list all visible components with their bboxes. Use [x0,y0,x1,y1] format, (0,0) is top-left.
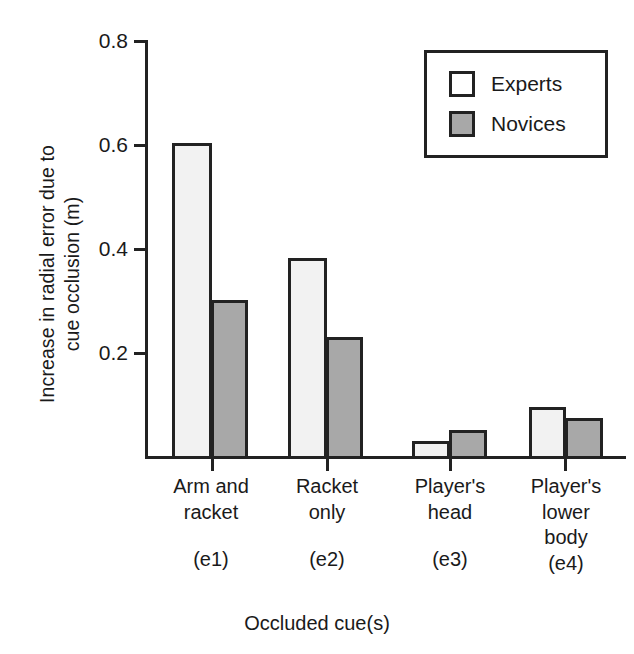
x-tick-e1 [211,459,214,471]
y-tick-0.6 [134,144,146,147]
x-tick-e4 [564,459,567,471]
y-axis-title-line-2: cue occlusion (m) [60,197,85,352]
y-tick-label-0.2: 0.2 [76,341,128,365]
x-axis-title: Occluded cue(s) [0,612,634,635]
legend-label-novices: Novices [491,112,566,136]
y-tick-label-0.8: 0.8 [76,29,128,53]
x-label-e4-line-3: body [498,525,634,551]
y-tick-0.8 [134,40,146,43]
legend-entry-experts: Experts [449,71,605,97]
y-axis-title: Increase in radial error due to cue occl… [29,54,91,494]
bar-novices-e2 [326,337,363,459]
x-tick-e3 [449,459,452,471]
bar-novices-e4 [565,418,603,459]
x-label-e2-line-2: only [259,500,395,526]
x-label-group-e2: Racket only (e2) [259,474,395,573]
bar-experts-e4 [529,407,566,459]
y-tick-0.4 [134,248,146,251]
y-axis-title-line-1: Increase in radial error due to [35,145,60,403]
x-label-e2-line-1: Racket [259,474,395,500]
x-label-e4-line-2: lower [498,500,634,526]
bar-novices-e1 [211,300,248,459]
bar-experts-e2 [288,258,327,459]
x-tick-e2 [326,459,329,471]
x-label-group-e4: Player's lower body (e4) [498,474,634,576]
bar-chart-figure: Increase in radial error due to cue occl… [0,0,634,654]
bar-experts-e1 [172,143,212,459]
bar-novices-e3 [449,430,487,459]
bar-experts-e3 [412,441,450,459]
y-tick-label-0.6: 0.6 [76,133,128,157]
legend-label-experts: Experts [491,72,562,96]
legend-swatch-novices [449,111,475,137]
x-label-e4-line-1: Player's [498,474,634,500]
y-tick-0.2 [134,352,146,355]
chart-legend: Experts Novices [424,50,608,158]
legend-entry-novices: Novices [449,111,605,137]
x-label-code-e4: (e4) [498,551,634,577]
y-tick-label-0.4: 0.4 [76,237,128,261]
legend-swatch-experts [449,71,475,97]
x-label-code-e2: (e2) [259,547,395,573]
